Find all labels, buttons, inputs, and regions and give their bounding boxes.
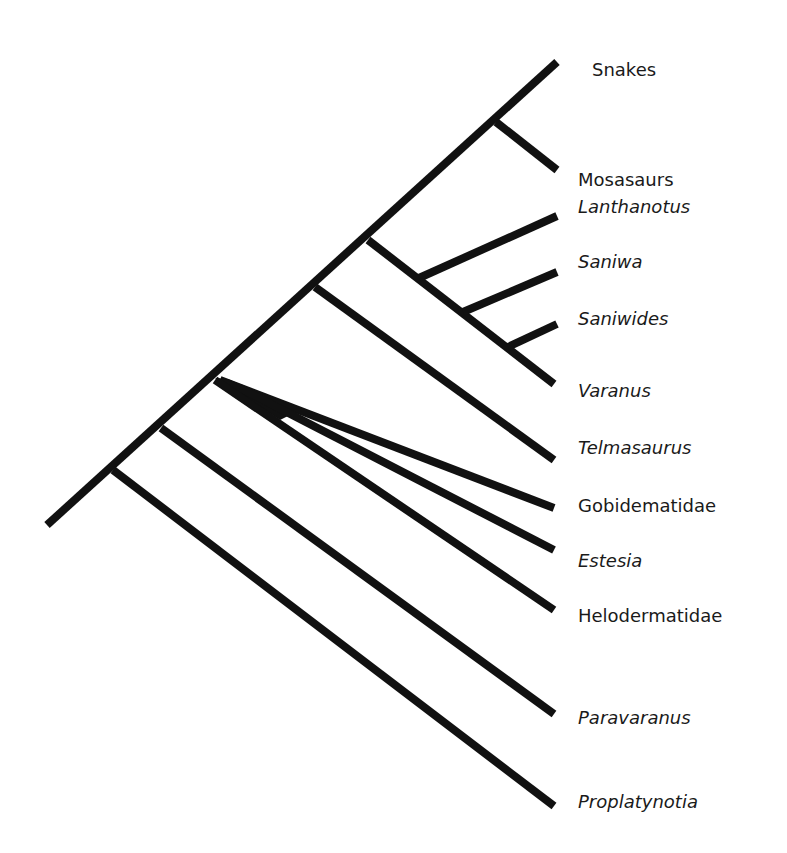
taxon-label-telmasaurus: Telmasaurus bbox=[578, 438, 691, 458]
taxon-label-varanus: Varanus bbox=[578, 381, 651, 401]
branch-spine bbox=[47, 62, 557, 525]
branch-proplatynotia bbox=[113, 470, 554, 806]
taxon-label-helodermatidae: Helodermatidae bbox=[578, 606, 722, 626]
taxon-label-proplatynotia: Proplatynotia bbox=[578, 792, 698, 812]
taxon-label-lanthanotus: Lanthanotus bbox=[578, 197, 690, 217]
taxon-label-paravaranus: Paravaranus bbox=[578, 708, 691, 728]
branch-saniwa bbox=[463, 272, 557, 312]
taxon-label-estesia: Estesia bbox=[578, 551, 642, 571]
taxon-label-snakes: Snakes bbox=[592, 60, 656, 80]
taxon-label-saniwides: Saniwides bbox=[578, 309, 668, 329]
taxon-label-mosasaurs: Mosasaurs bbox=[578, 170, 674, 190]
taxon-label-gobidematidae: Gobidematidae bbox=[578, 496, 716, 516]
branch-saniwides bbox=[508, 324, 557, 347]
taxon-label-saniwa: Saniwa bbox=[578, 252, 643, 272]
branch-helodermatidae bbox=[215, 380, 554, 610]
branch-mosasaurs bbox=[496, 122, 557, 170]
branch-lanthanotus bbox=[419, 216, 557, 278]
branch-estesia bbox=[240, 388, 554, 550]
